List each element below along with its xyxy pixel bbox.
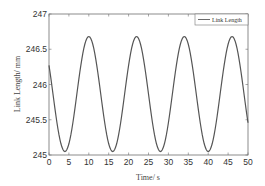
plot-frame: [49, 14, 248, 155]
x-tick-label: 0: [47, 157, 52, 167]
x-axis-title: Time/ s: [136, 173, 160, 182]
x-tick-label: 10: [84, 157, 94, 167]
x-tick-label: 30: [164, 157, 174, 167]
x-tick-label: 15: [104, 157, 114, 167]
y-tick-label: 246.5: [26, 44, 48, 54]
line-chart: 245245.5246246.5247 05101520253035404550…: [0, 0, 265, 186]
y-tick-label: 247: [33, 9, 47, 19]
plot-area: [49, 14, 248, 155]
x-tick-label: 40: [203, 157, 213, 167]
x-tick-label: 20: [124, 157, 134, 167]
x-tick-label: 45: [223, 157, 233, 167]
x-tick-label: 25: [144, 157, 154, 167]
legend-label: Link Length: [212, 17, 242, 23]
x-tick-label: 5: [67, 157, 72, 167]
y-tick-label: 245: [33, 150, 47, 160]
legend: Link Length: [195, 14, 248, 25]
x-tick-label: 35: [184, 157, 194, 167]
y-tick-label: 246: [33, 80, 47, 90]
x-tick-label: 50: [243, 157, 253, 167]
y-tick-label: 245.5: [26, 115, 48, 125]
y-axis-title: Link Length/ mm: [13, 55, 22, 112]
